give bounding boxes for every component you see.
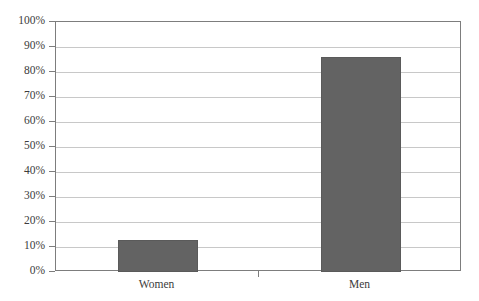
bar-women [118,240,198,273]
y-axis-tick-label: 80% [0,65,45,77]
y-axis-tick-label: 40% [0,165,45,177]
y-axis-tick-label: 100% [0,15,45,27]
bar-men [321,57,401,272]
y-axis-tick [49,271,55,272]
y-axis-tick-label: 90% [0,40,45,52]
y-axis-tick-label: 20% [0,215,45,227]
x-axis-label-men: Men [300,279,420,291]
y-axis-tick-label: 50% [0,140,45,152]
y-axis-tick-label: 60% [0,115,45,127]
plot-area [55,21,461,271]
y-axis-tick-label: 30% [0,190,45,202]
y-axis-tick-label: 70% [0,90,45,102]
x-axis-label-women: Women [97,279,217,291]
category-separator-tick [258,271,259,277]
y-axis-tick-label: 0% [0,265,45,277]
y-axis-tick-label: 10% [0,240,45,252]
gridline [56,47,460,48]
bar-chart: 100%90%80%70%60%50%40%30%20%10%0% WomenM… [0,0,479,301]
